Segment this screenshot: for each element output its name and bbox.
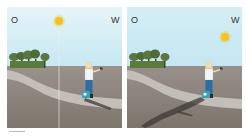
- east-label: O: [131, 15, 138, 25]
- panel-morning: O W: [7, 7, 122, 128]
- panel-evening: O W: [127, 7, 242, 128]
- caption-marker: [9, 131, 25, 132]
- scene-morning: O W: [7, 7, 122, 128]
- scene-evening: O W: [127, 7, 242, 128]
- west-label: W: [111, 15, 120, 25]
- west-label: W: [231, 15, 240, 25]
- east-label: O: [11, 15, 18, 25]
